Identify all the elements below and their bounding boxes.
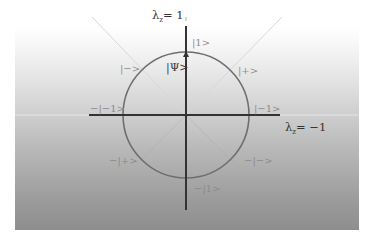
label-ket-1: |1> — [192, 38, 210, 48]
label-psi: |Ψ> — [166, 62, 189, 73]
label-ket-minus: |−> — [120, 64, 140, 74]
vertical-axis-label: λz= 1 — [152, 10, 184, 24]
state-diagram — [0, 0, 367, 238]
diagonal-line-lower-left — [126, 115, 186, 175]
label-neg-ket-1: −|1> — [194, 184, 221, 194]
label-neg-ket-minus: −|−> — [244, 156, 273, 166]
diagonal-line-plus — [186, 17, 282, 115]
label-ket-minus-1: |−1> — [254, 104, 281, 114]
horizontal-axis-label: λz= −1 — [285, 122, 326, 136]
label-neg-ket-minus-1: −|−1> — [90, 104, 125, 114]
label-ket-plus: |+> — [238, 66, 258, 76]
label-neg-ket-plus: −|+> — [109, 156, 138, 166]
diagonal-line-lower-right — [186, 115, 246, 175]
